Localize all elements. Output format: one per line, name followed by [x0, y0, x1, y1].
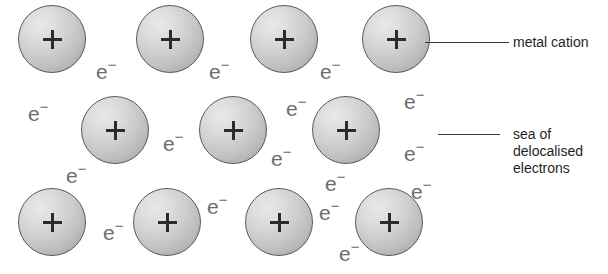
metal-cation	[133, 188, 201, 256]
electron-symbol: e−	[404, 143, 424, 164]
electron-symbol: e−	[411, 181, 431, 202]
electron-symbol: e−	[96, 61, 116, 82]
metal-cation	[362, 5, 430, 73]
plus-icon	[43, 213, 62, 232]
metal-cation	[245, 188, 313, 256]
metal-cation	[81, 96, 149, 164]
electron-symbol: e−	[320, 61, 340, 82]
electron-letter: e	[163, 132, 175, 155]
electron-symbol: e−	[325, 173, 345, 194]
metal-cation	[199, 96, 267, 164]
plus-icon	[380, 213, 399, 232]
electron-charge: −	[40, 98, 49, 115]
electron-letter: e	[319, 201, 331, 224]
callout-electron-sea: sea of delocalised electrons	[513, 126, 583, 177]
electron-charge: −	[219, 191, 228, 208]
electron-charge: −	[108, 56, 117, 73]
electron-charge: −	[331, 197, 340, 214]
electron-letter: e	[209, 60, 221, 83]
plus-icon	[106, 121, 125, 140]
electron-symbol: e−	[319, 202, 339, 223]
electron-letter: e	[411, 180, 423, 203]
metal-cation	[18, 188, 86, 256]
electron-symbol: e−	[339, 243, 359, 264]
electron-symbol: e−	[404, 91, 424, 112]
metal-cation	[136, 5, 204, 73]
electron-charge: −	[298, 93, 307, 110]
metallic-bonding-diagram: e−e−e−e−e−e−e−e−e−e−e−e−e−e−e−e− metal c…	[0, 0, 608, 274]
plus-icon	[337, 121, 356, 140]
callout-metal-cation: metal cation	[513, 34, 588, 51]
electron-letter: e	[271, 147, 283, 170]
leader-line	[425, 42, 509, 43]
electron-charge: −	[221, 56, 230, 73]
plus-icon	[275, 30, 294, 49]
electron-charge: −	[115, 217, 124, 234]
electron-symbol: e−	[271, 148, 291, 169]
plus-icon	[270, 213, 289, 232]
plus-icon	[161, 30, 180, 49]
metal-cation	[312, 96, 380, 164]
leader-line	[438, 134, 500, 135]
electron-letter: e	[66, 164, 78, 187]
electron-charge: −	[416, 138, 425, 155]
electron-charge: −	[78, 160, 87, 177]
electron-charge: −	[332, 56, 341, 73]
electron-symbol: e−	[66, 165, 86, 186]
plus-icon	[158, 213, 177, 232]
electron-symbol: e−	[163, 133, 183, 154]
electron-symbol: e−	[207, 196, 227, 217]
electron-letter: e	[339, 242, 351, 265]
plus-icon	[224, 121, 243, 140]
electron-letter: e	[96, 60, 108, 83]
electron-symbol: e−	[209, 61, 229, 82]
electron-symbol: e−	[286, 98, 306, 119]
electron-charge: −	[423, 176, 432, 193]
electron-charge: −	[337, 168, 346, 185]
metal-cation	[250, 5, 318, 73]
electron-letter: e	[325, 172, 337, 195]
electron-letter: e	[320, 60, 332, 83]
electron-charge: −	[175, 128, 184, 145]
electron-symbol: e−	[103, 222, 123, 243]
plus-icon	[43, 30, 62, 49]
electron-letter: e	[28, 102, 40, 125]
electron-charge: −	[351, 238, 360, 255]
metal-cation	[18, 5, 86, 73]
electron-charge: −	[416, 86, 425, 103]
electron-letter: e	[286, 97, 298, 120]
electron-letter: e	[103, 221, 115, 244]
electron-letter: e	[404, 142, 416, 165]
plus-icon	[387, 30, 406, 49]
electron-letter: e	[404, 90, 416, 113]
electron-letter: e	[207, 195, 219, 218]
electron-charge: −	[283, 143, 292, 160]
electron-symbol: e−	[28, 103, 48, 124]
